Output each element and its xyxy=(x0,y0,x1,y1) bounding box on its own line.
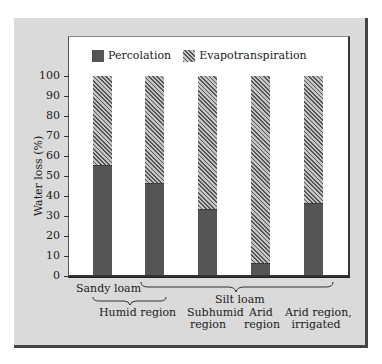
y-tick-mark xyxy=(64,136,69,137)
stacked-bar xyxy=(251,76,270,276)
humid-brace-icon xyxy=(92,296,172,306)
label-silt-loam: Silt loam xyxy=(215,294,265,306)
bar-segment-evapotranspiration xyxy=(304,76,323,204)
y-tick-mark xyxy=(64,176,69,177)
label-sandy-loam: Sandy loam xyxy=(76,283,141,295)
y-tick-mark xyxy=(64,256,69,257)
bar-segment-evapotranspiration xyxy=(198,76,217,210)
y-tick-label: 20 xyxy=(30,229,60,242)
bar-segment-evapotranspiration xyxy=(93,76,112,166)
y-tick-label: 80 xyxy=(30,109,60,122)
label-humid-region: Humid region xyxy=(99,307,176,319)
bar-segment-evapotranspiration xyxy=(251,76,270,264)
bar-segment-evapotranspiration xyxy=(145,76,164,184)
y-tick-mark xyxy=(64,216,69,217)
y-tick-mark xyxy=(64,116,69,117)
stacked-bar xyxy=(145,76,164,276)
evapotranspiration-swatch-icon xyxy=(183,50,195,62)
y-tick-label: 100 xyxy=(30,69,60,82)
stacked-bar xyxy=(93,76,112,276)
y-tick-mark xyxy=(64,96,69,97)
y-tick-label: 60 xyxy=(30,149,60,162)
bar-segment-percolation xyxy=(145,183,164,276)
y-tick-mark xyxy=(64,196,69,197)
label-arid-irrigated: Arid region, irrigated xyxy=(285,307,347,331)
y-tick-label: 30 xyxy=(30,209,60,222)
legend-evapotranspiration: Evapotranspiration xyxy=(199,49,306,62)
y-tick-mark xyxy=(64,236,69,237)
label-arid-region: Arid region xyxy=(244,307,278,331)
bar-segment-percolation xyxy=(304,203,323,276)
stacked-bar xyxy=(304,76,323,276)
bar-segment-percolation xyxy=(198,209,217,276)
legend-percolation: Percolation xyxy=(108,49,171,62)
silt-loam-brace-icon xyxy=(140,281,340,293)
y-tick-label: 0 xyxy=(30,269,60,282)
stacked-bar xyxy=(198,76,217,276)
y-tick-label: 90 xyxy=(30,89,60,102)
y-tick-label: 40 xyxy=(30,189,60,202)
y-tick-mark xyxy=(64,156,69,157)
y-tick-label: 10 xyxy=(30,249,60,262)
y-tick-mark xyxy=(64,76,69,77)
percolation-swatch-icon xyxy=(92,50,104,62)
y-tick-label: 50 xyxy=(30,169,60,182)
bar-segment-percolation xyxy=(93,165,112,276)
x-axis-line xyxy=(69,275,348,277)
y-tick-label: 70 xyxy=(30,129,60,142)
legend: Percolation Evapotranspiration xyxy=(92,49,319,62)
label-subhumid-region: Subhumid region xyxy=(187,307,229,331)
